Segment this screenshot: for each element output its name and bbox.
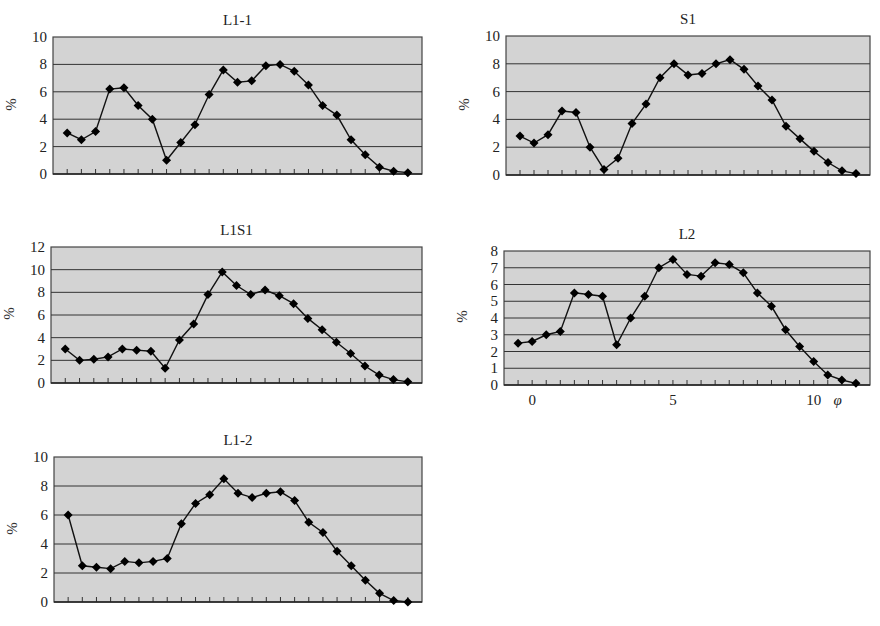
svg-text:4: 4 [41,536,49,552]
svg-text:2: 2 [41,565,49,581]
svg-text:8: 8 [41,478,49,494]
svg-text:10: 10 [33,449,48,465]
line-chart-l1-2: 0246810 [0,0,880,626]
svg-text:0: 0 [41,594,49,610]
svg-text:6: 6 [41,507,49,523]
